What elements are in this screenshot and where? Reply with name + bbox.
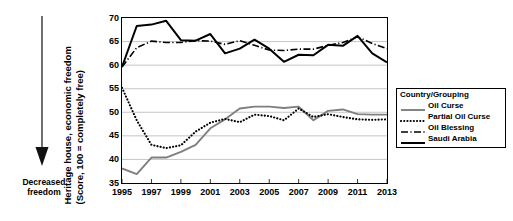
y-axis-title: Heritage house, economic freedom (Score,… <box>58 8 98 204</box>
x-axis-tick-labels: 1995199719992001200320052007200920112013 <box>121 188 388 204</box>
legend-entry[interactable]: Partial Oil Curse <box>400 111 502 122</box>
x-tick-label: 1999 <box>171 188 191 197</box>
legend-entry-label: Partial Oil Curse <box>428 113 490 121</box>
y-tick-label: 55 <box>97 84 119 93</box>
legend-entry-label: Oil Blessing <box>428 124 474 132</box>
legend-entry[interactable]: Oil Curse <box>400 100 502 111</box>
x-tick-label: 2001 <box>200 188 220 197</box>
x-tick-marks <box>122 179 387 183</box>
legend-entry-label: Saudi Arabia <box>428 135 477 143</box>
x-tick-label: 2007 <box>289 188 309 197</box>
y-tick-label: 60 <box>97 61 119 70</box>
gridlines <box>122 42 387 160</box>
legend-title: Country/Grouping <box>400 90 502 100</box>
legend-swatch-icon <box>400 123 426 133</box>
chart-figure: Decreased freedom Heritage house, econom… <box>0 0 513 221</box>
y-tick-label: 40 <box>97 155 119 164</box>
legend-entry-label: Oil Curse <box>428 102 464 110</box>
data-series <box>122 21 387 174</box>
chart-legend[interactable]: Country/Grouping Oil CursePartial Oil Cu… <box>396 88 506 148</box>
series-line-saudi-arabia <box>122 21 387 67</box>
y-axis-title-line2: (Score, 100 = completely free) <box>75 70 85 204</box>
y-tick-label: 70 <box>97 14 119 23</box>
legend-swatch-icon <box>400 101 426 111</box>
legend-swatch-icon <box>400 112 426 122</box>
x-tick-label: 2009 <box>318 188 338 197</box>
x-tick-label: 2013 <box>377 188 397 197</box>
series-line-partial-oil-curse <box>122 88 387 148</box>
legend-entries: Oil CursePartial Oil CurseOil BlessingSa… <box>400 100 502 144</box>
decreased-freedom-arrow <box>30 16 54 168</box>
x-tick-label: 2005 <box>259 188 279 197</box>
y-tick-label: 45 <box>97 131 119 140</box>
legend-entry[interactable]: Saudi Arabia <box>400 133 502 144</box>
plot-area <box>121 17 388 184</box>
y-axis-title-line1: Heritage house, economic freedom <box>63 46 73 204</box>
legend-swatch-icon <box>400 134 426 144</box>
x-tick-label: 1995 <box>112 188 132 197</box>
x-tick-label: 1997 <box>141 188 161 197</box>
legend-entry[interactable]: Oil Blessing <box>400 122 502 133</box>
y-tick-label: 50 <box>97 108 119 117</box>
x-tick-label: 2011 <box>348 188 368 197</box>
y-tick-label: 65 <box>97 37 119 46</box>
x-tick-label: 2003 <box>230 188 250 197</box>
